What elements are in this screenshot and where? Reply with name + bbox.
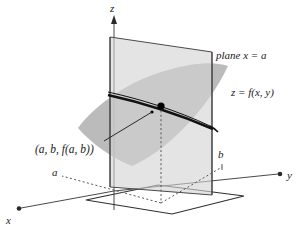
z-axis-arrowhead — [111, 15, 117, 24]
x-axis-arrowhead — [17, 206, 22, 211]
point-label: (a, b, f(a, b)) — [35, 143, 94, 156]
plane-label: plane x = a — [215, 49, 267, 61]
y-axis-label: y — [286, 169, 292, 181]
surface-label: z = f(x, y) — [230, 86, 274, 99]
b-label: b — [218, 148, 224, 160]
a-label: a — [52, 166, 58, 178]
point-a-b-fab — [157, 102, 164, 109]
surface-plane-intersection-diagram: z y x a b plane x = a z = f(x, y) (a, b,… — [0, 0, 301, 231]
y-axis-arrowhead — [278, 172, 283, 177]
z-axis-label: z — [109, 2, 115, 14]
x-axis-label: x — [5, 214, 11, 226]
